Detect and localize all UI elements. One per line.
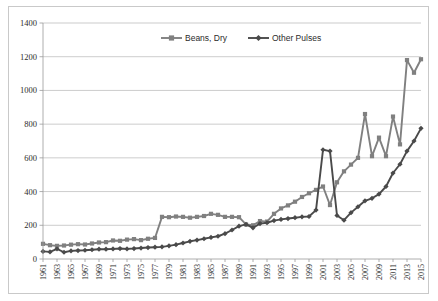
data-point-marker	[195, 215, 199, 219]
data-point-marker	[62, 243, 66, 247]
data-point-marker	[328, 203, 332, 207]
data-point-marker	[272, 212, 276, 216]
data-point-marker	[356, 156, 360, 160]
data-point-marker	[110, 246, 115, 251]
x-tick-label: 1985	[207, 264, 216, 280]
data-point-marker	[285, 216, 290, 221]
y-axis-ticks	[40, 23, 44, 259]
data-point-marker	[138, 245, 143, 250]
data-point-marker	[215, 234, 220, 239]
data-point-marker	[335, 180, 339, 184]
y-tick-label: 1000	[20, 85, 37, 95]
data-point-marker	[286, 203, 290, 207]
y-tick-label: 1200	[20, 52, 37, 62]
x-tick-label: 1987	[221, 264, 230, 280]
x-tick-label: 2013	[403, 264, 412, 280]
data-point-marker	[237, 215, 241, 219]
x-tick-label: 2015	[417, 264, 426, 280]
data-point-marker	[125, 238, 129, 242]
x-tick-label: 2001	[319, 264, 328, 280]
line-chart: 0200400600800100012001400 19611963196519…	[9, 7, 430, 295]
data-point-marker	[201, 236, 206, 241]
data-point-marker	[223, 215, 227, 219]
data-point-marker	[68, 248, 73, 253]
data-point-marker	[174, 214, 178, 218]
x-tick-label: 2011	[389, 264, 398, 280]
data-point-marker	[76, 242, 80, 246]
data-point-marker	[342, 169, 346, 173]
data-point-marker	[118, 239, 122, 243]
data-point-marker	[405, 58, 409, 62]
x-tick-label: 1965	[67, 264, 76, 280]
data-point-marker	[173, 242, 178, 247]
data-point-marker	[103, 247, 108, 252]
x-tick-label: 2009	[375, 264, 384, 280]
series-1	[41, 57, 423, 248]
data-point-marker	[398, 142, 402, 146]
data-point-marker	[419, 57, 423, 61]
data-point-marker	[327, 149, 332, 154]
x-tick-label: 1963	[53, 264, 62, 280]
x-axis-labels: 1961196319651967196919711973197519771979…	[39, 264, 426, 280]
plot-area: 0200400600800100012001400 19611963196519…	[9, 7, 430, 295]
data-point-marker	[111, 238, 115, 242]
data-point-marker	[271, 218, 276, 223]
data-point-marker	[117, 246, 122, 251]
chart-container: 0200400600800100012001400 19611963196519…	[8, 6, 429, 294]
y-axis-labels: 0200400600800100012001400	[20, 18, 37, 264]
data-point-marker	[349, 163, 353, 167]
data-point-marker	[104, 240, 108, 244]
x-tick-label: 1991	[249, 264, 258, 280]
data-point-marker	[208, 235, 213, 240]
data-point-marker	[124, 246, 129, 251]
data-point-marker	[370, 154, 374, 158]
data-point-marker	[146, 237, 150, 241]
data-point-marker	[299, 214, 304, 219]
chart-legend: Beans, DryOther Pulses	[161, 33, 321, 43]
legend-marker-2	[255, 35, 261, 41]
data-point-marker	[321, 184, 325, 188]
data-point-marker	[75, 248, 80, 253]
data-point-marker	[90, 241, 94, 245]
data-point-marker	[300, 195, 304, 199]
x-tick-label: 1997	[291, 264, 300, 280]
data-point-marker	[83, 242, 87, 246]
data-point-marker	[48, 243, 52, 247]
data-point-marker	[159, 244, 164, 249]
data-point-marker	[153, 236, 157, 240]
x-tick-label: 2007	[361, 264, 370, 280]
x-tick-label: 1961	[39, 264, 48, 280]
x-tick-label: 1967	[81, 264, 90, 280]
y-tick-label: 600	[24, 153, 37, 163]
y-tick-label: 200	[24, 220, 37, 230]
legend-label-1: Beans, Dry	[185, 33, 228, 43]
data-point-marker	[181, 215, 185, 219]
data-point-marker	[180, 240, 185, 245]
x-tick-label: 1995	[277, 264, 286, 280]
x-tick-label: 1975	[137, 264, 146, 280]
data-point-marker	[145, 245, 150, 250]
data-point-marker	[187, 239, 192, 244]
x-tick-label: 1993	[263, 264, 272, 280]
data-point-marker	[230, 215, 234, 219]
data-point-marker	[96, 247, 101, 252]
data-point-marker	[202, 214, 206, 218]
legend-marker-1	[169, 35, 174, 40]
data-point-marker	[152, 245, 157, 250]
x-tick-label: 1989	[235, 264, 244, 280]
data-point-marker	[216, 213, 220, 217]
x-tick-label: 1977	[151, 264, 160, 280]
x-tick-label: 1981	[179, 264, 188, 280]
data-point-marker	[69, 243, 73, 247]
data-point-marker	[89, 247, 94, 252]
data-point-marker	[363, 112, 367, 116]
data-point-marker	[132, 237, 136, 241]
x-axis-ticks	[43, 259, 421, 262]
x-tick-label: 1973	[123, 264, 132, 280]
data-point-marker	[279, 206, 283, 210]
series-2	[40, 126, 423, 255]
data-point-marker	[97, 240, 101, 244]
data-point-marker	[292, 215, 297, 220]
data-point-marker	[209, 212, 213, 216]
x-tick-label: 2005	[347, 264, 356, 280]
